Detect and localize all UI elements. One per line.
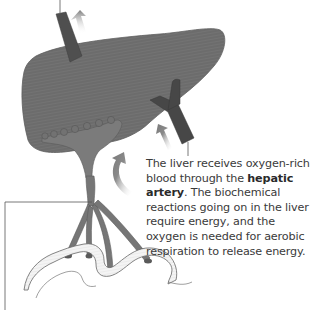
arrow-up-hepatic-artery (156, 124, 172, 150)
arrow-curved-portal-vein (112, 152, 132, 196)
intestine-lower (36, 271, 96, 298)
arrow-up-hepatic-vein (71, 10, 86, 34)
liver-diagram (0, 0, 317, 310)
hepatic-artery-caption: The liver receives oxygen-rich blood thr… (146, 157, 317, 259)
